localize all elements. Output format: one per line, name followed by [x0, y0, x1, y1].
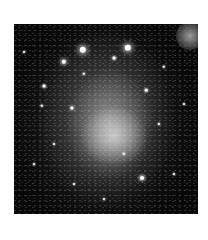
star [33, 163, 35, 165]
star [73, 183, 75, 185]
star [103, 198, 105, 200]
star [23, 51, 25, 53]
star [173, 173, 175, 175]
star [140, 176, 144, 180]
star [145, 89, 148, 92]
star [53, 143, 55, 145]
star [43, 85, 46, 88]
star [183, 103, 185, 105]
star [113, 57, 116, 60]
galaxy-photo [14, 24, 198, 214]
star-field-noise [14, 24, 198, 214]
